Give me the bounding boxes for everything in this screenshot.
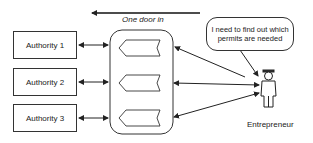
hub-slot-1-shape [119,40,160,56]
authority-2-label: Authority 2 [26,78,64,87]
speech-bubble-text: I need to find out which permits are nee… [207,25,293,43]
entrepreneur-label: Entrepreneur [247,120,294,129]
authority-1-box: Authority 1 [13,31,77,59]
hub-slot-3-shape [119,110,160,126]
speech-bubble: I need to find out which permits are nee… [206,17,294,51]
authority-3-box: Authority 3 [13,104,77,132]
one-door-in-label: One door in [122,15,164,24]
entrepreneur-figure-icon [261,70,276,107]
authority-3-label: Authority 3 [26,114,64,123]
authority-1-label: Authority 1 [26,41,64,50]
bubble-to-actor-link [240,50,258,76]
hub-slot-2-shape [119,75,160,91]
entrepreneur-link-3 [174,93,259,117]
entrepreneur-link-1 [175,47,245,77]
entrepreneur-link-2 [174,83,259,85]
authority-2-box: Authority 2 [13,68,77,96]
